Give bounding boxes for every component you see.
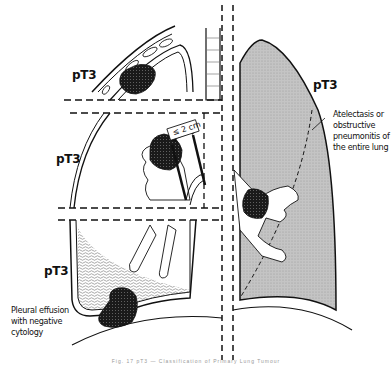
- label-pt3-right-lung: pT3: [313, 78, 337, 92]
- diaphragm-right: [233, 307, 352, 330]
- tumor-right: [243, 189, 269, 219]
- panel-separators: [58, 100, 222, 220]
- panel-pleural-effusion: [70, 220, 222, 345]
- label-pt3-effusion: pT3: [44, 264, 68, 278]
- pt3-staging-diagram: pT3 pT3 pT3 pT3 ≤ 2 cm Atelectasis or ob…: [0, 0, 392, 372]
- trachea: [206, 28, 220, 100]
- annotation-effusion: Pleural effusion with negative cytology: [11, 305, 69, 338]
- bronchial-tree-lower: [129, 225, 176, 278]
- tumor-chest-wall: [120, 64, 156, 94]
- figure-caption: Fig. 17 pT3 — Classification of Primary …: [0, 358, 392, 364]
- annotation-atelectasis: Atelectasis or obstructive pneumonitis o…: [333, 109, 389, 153]
- label-pt3-bronchus: pT3: [56, 152, 80, 166]
- diaphragm-left: [72, 317, 222, 345]
- label-pt3-chest-wall: pT3: [72, 68, 96, 82]
- panel-chest-wall: [92, 26, 193, 100]
- mediastinum-lines: [222, 5, 233, 360]
